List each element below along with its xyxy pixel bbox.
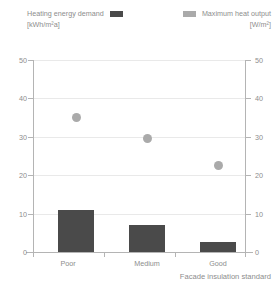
y-tick-right-50 <box>246 60 251 61</box>
y-tick-left-50 <box>28 60 33 61</box>
y-tick-right-40 <box>246 98 251 99</box>
legend-left-row: Heating energy demand <box>27 9 123 19</box>
legend-left-unit: [kWh/m²a] <box>27 20 123 30</box>
legend-entry-heating-energy-demand: Heating energy demand [kWh/m²a] <box>27 9 123 30</box>
y-label-right-30: 30 <box>255 134 279 141</box>
legend-bar-swatch-icon <box>110 11 123 17</box>
y-tick-right-30 <box>246 137 251 138</box>
y-label-right-0: 0 <box>255 249 279 256</box>
legend-right-unit: [W/m²] <box>183 20 271 30</box>
bar-poor <box>58 210 94 252</box>
legend-right-row: Maximum heat output <box>183 9 271 19</box>
plot-area: 50 40 30 20 10 0 50 40 30 20 10 0 Poor M… <box>33 60 246 252</box>
y-label-left-10: 10 <box>0 211 27 218</box>
bar-medium <box>129 225 165 252</box>
x-tick-3 <box>245 252 246 257</box>
y-label-left-30: 30 <box>0 134 27 141</box>
gridline-40 <box>33 98 246 99</box>
x-tick-1 <box>104 252 105 257</box>
dot-poor <box>72 113 81 122</box>
dot-medium <box>143 134 152 143</box>
x-tick-0 <box>33 252 34 257</box>
legend-entry-maximum-heat-output: Maximum heat output [W/m²] <box>183 9 271 30</box>
x-tick-2 <box>175 252 176 257</box>
y-tick-right-10 <box>246 214 251 215</box>
y-tick-left-20 <box>28 175 33 176</box>
y-axis-left <box>33 60 34 252</box>
y-label-right-40: 40 <box>255 95 279 102</box>
bar-good <box>200 242 236 252</box>
y-label-right-50: 50 <box>255 57 279 64</box>
x-label-good: Good <box>188 260 248 268</box>
y-label-right-20: 20 <box>255 172 279 179</box>
x-label-medium: Medium <box>117 260 177 268</box>
y-tick-left-30 <box>28 137 33 138</box>
x-axis-title: Facade insulation standard <box>180 272 271 281</box>
legend-right-label: Maximum heat output <box>202 9 271 19</box>
y-label-left-40: 40 <box>0 95 27 102</box>
y-tick-left-10 <box>28 214 33 215</box>
y-axis-right <box>245 60 246 252</box>
legend-left-label: Heating energy demand <box>27 9 104 19</box>
y-label-left-50: 50 <box>0 57 27 64</box>
gridline-30 <box>33 137 246 138</box>
gridline-20 <box>33 175 246 176</box>
x-axis <box>26 252 253 253</box>
gridline-50 <box>33 60 246 61</box>
dot-good <box>214 161 223 170</box>
legend-dot-swatch-icon <box>183 11 196 17</box>
x-label-poor: Poor <box>38 260 98 268</box>
y-tick-right-20 <box>246 175 251 176</box>
y-tick-left-40 <box>28 98 33 99</box>
y-label-left-20: 20 <box>0 172 27 179</box>
y-label-right-10: 10 <box>255 211 279 218</box>
y-tick-right-0 <box>246 252 251 253</box>
chart-legend: Heating energy demand [kWh/m²a] Maximum … <box>0 0 279 40</box>
y-label-left-0: 0 <box>0 249 27 256</box>
